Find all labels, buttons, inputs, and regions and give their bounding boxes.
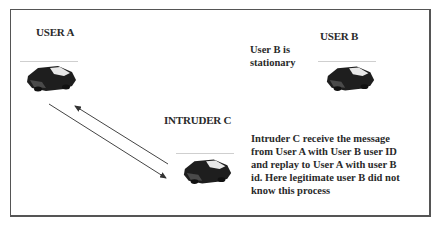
message-arrows — [0, 0, 441, 229]
arrow-user-a-to-intruder — [49, 104, 166, 178]
arrow-intruder-to-user-a — [75, 106, 168, 164]
